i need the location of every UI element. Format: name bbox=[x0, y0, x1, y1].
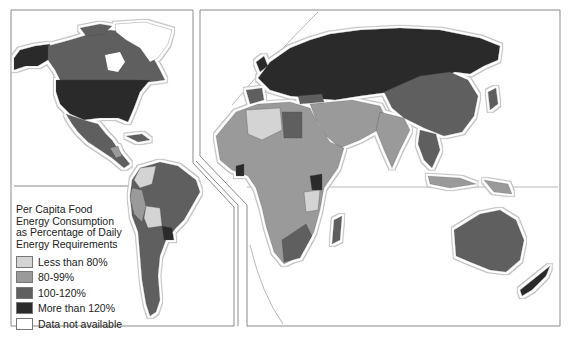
legend-label: 100-120% bbox=[38, 287, 86, 299]
legend-item-100-120: 100-120% bbox=[16, 285, 226, 301]
legend-item-80-99: 80-99% bbox=[16, 270, 226, 286]
region-libya bbox=[282, 112, 302, 138]
region-alaska bbox=[14, 44, 50, 70]
legend-swatch bbox=[16, 256, 33, 268]
legend-label: More than 120% bbox=[38, 302, 115, 314]
legend-title-line: Energy Requirements bbox=[16, 239, 226, 251]
legend-item-lt80: Less than 80% bbox=[16, 254, 226, 270]
legend-swatch bbox=[16, 271, 33, 283]
legend-item-gt120: More than 120% bbox=[16, 301, 226, 317]
legend-title-line: Per Capita Food bbox=[16, 204, 226, 216]
region-indonesia bbox=[428, 176, 476, 188]
old-world bbox=[216, 28, 550, 296]
region-india bbox=[376, 112, 410, 168]
legend-label: Data not available bbox=[38, 318, 122, 330]
legend-swatch bbox=[16, 302, 33, 314]
legend-swatch bbox=[16, 287, 33, 299]
region-new-zealand bbox=[520, 266, 550, 296]
legend-title: Per Capita Food Energy Consumption as Pe… bbox=[16, 204, 226, 250]
legend-label: 80-99% bbox=[38, 271, 74, 283]
legend-title-line: as Percentage of Daily bbox=[16, 227, 226, 239]
region-mexico bbox=[66, 114, 130, 168]
legend-label: Less than 80% bbox=[38, 256, 107, 268]
region-australia bbox=[454, 210, 524, 272]
map-legend: Per Capita Food Energy Consumption as Pe… bbox=[16, 204, 226, 332]
legend-swatch bbox=[16, 318, 33, 330]
legend-item-na: Data not available bbox=[16, 316, 226, 332]
region-madagascar bbox=[332, 216, 342, 244]
region-tanzania bbox=[304, 190, 320, 212]
